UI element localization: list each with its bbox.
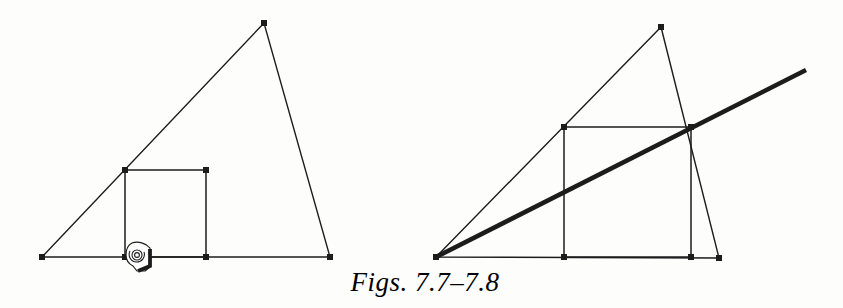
point-marker <box>658 24 664 30</box>
point-marker <box>203 254 209 260</box>
book-figure-page: Figs. 7.7–7.8 <box>0 0 843 308</box>
point-marker <box>327 254 333 260</box>
point-marker <box>561 124 567 130</box>
point-marker <box>203 167 209 173</box>
point-marker <box>433 254 439 260</box>
figures-canvas <box>0 0 843 308</box>
triangle-outline <box>42 23 330 257</box>
inscribed-square <box>564 127 691 257</box>
construction-thick-line <box>436 70 806 257</box>
figure-caption: Figs. 7.7–7.8 <box>0 267 843 298</box>
point-marker <box>688 124 694 130</box>
point-marker <box>122 167 128 173</box>
point-marker <box>561 254 567 260</box>
fig-7-7 <box>39 20 333 271</box>
point-marker <box>261 20 267 26</box>
point-marker <box>716 255 722 261</box>
triangle-outline <box>436 27 719 258</box>
fig-7-8 <box>433 24 806 261</box>
point-marker <box>39 254 45 260</box>
point-marker <box>688 254 694 260</box>
